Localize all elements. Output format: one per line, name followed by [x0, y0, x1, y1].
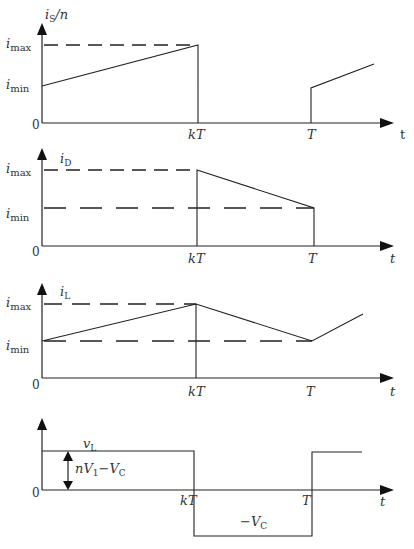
tick-imin: imin — [6, 77, 30, 94]
y-label-is: iS/n — [45, 7, 68, 24]
waveform-il — [42, 304, 363, 341]
x-label-t: t — [400, 127, 406, 142]
panel-id: iD imax imin 0 kT T t — [6, 148, 396, 266]
tick-imin: imin — [6, 206, 30, 223]
arrow-up-icon — [63, 451, 73, 461]
annotation-nV1-minus-VC: nV1−VC — [75, 461, 126, 478]
x-axis — [42, 241, 394, 251]
waveform-is-next — [311, 64, 374, 123]
tick-T: T — [307, 127, 317, 142]
tick-zero: 0 — [32, 486, 40, 500]
x-label-t: t — [390, 384, 396, 399]
x-axis — [42, 485, 394, 495]
x-axis — [42, 373, 394, 383]
tick-imax: imax — [6, 161, 32, 178]
panel-is: iS/n imax imin 0 kT T t — [6, 7, 406, 142]
x-axis-arrow-icon — [380, 118, 394, 128]
x-axis-arrow-icon — [380, 241, 394, 251]
tick-kT: kT — [180, 493, 198, 508]
tick-kT: kT — [188, 384, 206, 399]
y-axis-arrow-icon — [37, 148, 47, 160]
tick-zero: 0 — [32, 118, 40, 132]
tick-T: T — [308, 251, 318, 266]
x-axis-arrow-icon — [380, 373, 394, 383]
waveform-diagram: iS/n imax imin 0 kT T t iD imax imin 0 k… — [0, 0, 414, 549]
y-axis-arrow-icon — [37, 418, 47, 430]
tick-imin: imin — [6, 338, 30, 355]
y-label-il: iL — [60, 284, 70, 301]
x-axis — [42, 118, 394, 128]
waveform-is — [42, 45, 198, 123]
tick-T: T — [302, 493, 312, 508]
annotation-minus-VC: −VC — [240, 514, 267, 531]
tick-kT: kT — [188, 251, 206, 266]
amplitude-double-arrow — [63, 451, 73, 490]
panel-il: iL imax imin 0 kT T t — [6, 283, 396, 399]
y-axis — [37, 148, 47, 246]
tick-kT: kT — [188, 127, 206, 142]
x-label-t: t — [390, 251, 396, 266]
y-label-vl: vL — [83, 436, 96, 453]
tick-zero: 0 — [32, 245, 40, 259]
y-axis — [37, 23, 47, 123]
panel-vl: vL nV1−VC 0 kT T t −VC — [32, 418, 394, 536]
tick-imax: imax — [6, 36, 32, 53]
y-axis — [37, 418, 47, 490]
y-label-id: iD — [60, 151, 71, 168]
tick-zero: 0 — [32, 378, 40, 392]
x-label-t: t — [380, 494, 386, 509]
y-axis — [37, 283, 47, 378]
tick-T: T — [306, 384, 316, 399]
y-axis-arrow-icon — [37, 23, 47, 35]
arrow-down-icon — [63, 481, 73, 490]
y-axis-arrow-icon — [37, 283, 47, 295]
tick-imax: imax — [6, 295, 32, 312]
